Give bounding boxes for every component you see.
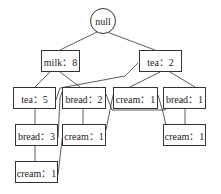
root-null: null — [90, 8, 116, 34]
node-cream-1-a: cream：1 — [113, 87, 158, 109]
node-tea-2: tea：2 — [139, 50, 182, 72]
node-tea-5: tea：5 — [13, 87, 56, 109]
node-cream-1-b: cream：1 — [62, 124, 106, 146]
node-cream-1-c: cream：1 — [163, 124, 206, 146]
node-cream-1-d: cream：1 — [15, 161, 58, 183]
node-milk: milk：8 — [41, 50, 80, 72]
node-bread-2: bread：2 — [62, 87, 106, 109]
node-bread-3: bread：3 — [15, 124, 58, 146]
node-bread-1: bread：1 — [163, 87, 206, 109]
